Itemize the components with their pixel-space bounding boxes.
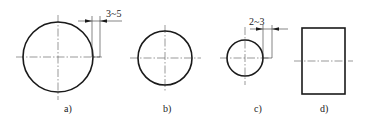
- figure-label-b: b): [163, 103, 171, 115]
- arrow-right-icon: [256, 27, 263, 30]
- dimension-text-a: 3~5: [106, 8, 121, 19]
- figure-c: 2~3 c): [220, 16, 288, 115]
- arrow-right-icon: [85, 19, 92, 22]
- arrow-left-icon: [100, 19, 107, 22]
- figure-label-d: d): [320, 103, 328, 115]
- figure-label-a: a): [64, 103, 72, 115]
- figure-b: b): [130, 25, 201, 115]
- technical-drawing: 3~5 a) b) 2~3 c) d): [0, 0, 371, 129]
- figure-a: 3~5 a): [16, 8, 122, 115]
- arrow-left-icon: [272, 27, 279, 30]
- figure-d: d): [294, 28, 353, 115]
- dimension-text-c: 2~3: [249, 16, 264, 27]
- figure-label-c: c): [254, 103, 262, 115]
